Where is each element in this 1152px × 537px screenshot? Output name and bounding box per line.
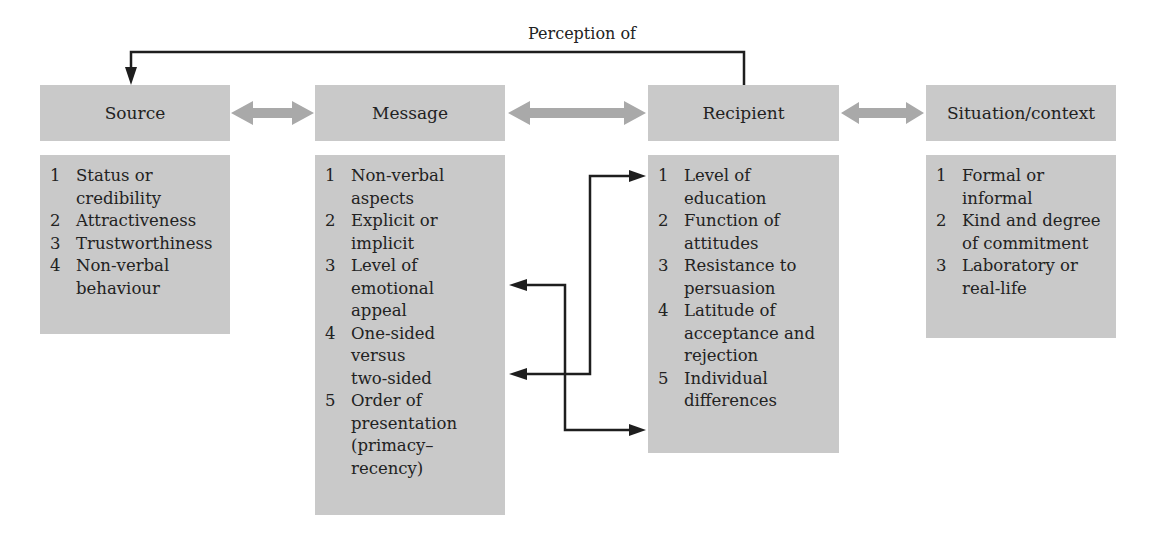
double-arrow-icon bbox=[841, 102, 924, 124]
double-arrow-icon bbox=[508, 101, 646, 125]
education-to-sidedness-arrow bbox=[509, 170, 646, 380]
emotional-appeal-to-differences-arrow bbox=[509, 279, 646, 436]
perception-feedback-arrow bbox=[125, 52, 744, 85]
connectors bbox=[0, 0, 1152, 537]
double-arrow-icon bbox=[231, 101, 314, 125]
